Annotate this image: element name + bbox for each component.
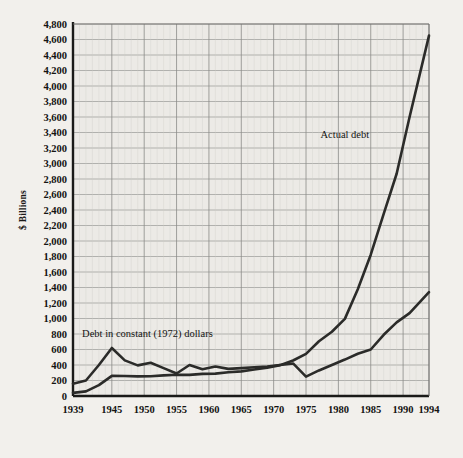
y-tick-label: 3,800 [43,96,67,107]
y-tick-label: 3,600 [43,112,67,123]
y-axis-title: $ Billions [18,190,28,230]
y-tick-label: 4,800 [43,19,67,30]
y-tick-label: 2,000 [43,236,67,247]
y-tick-label: 1,800 [43,251,67,262]
x-tick-label: 1960 [198,404,219,415]
y-tick-label: 4,200 [43,65,67,76]
y-tick-label: 4,000 [43,81,67,92]
x-tick-label: 1965 [231,404,252,415]
chart-figure: 02004006008001,0001,2001,4001,6001,8002,… [0,0,463,458]
x-tick-label: 1994 [419,404,441,415]
x-tick-label: 1950 [134,404,155,415]
y-tick-label: 3,000 [43,158,67,169]
x-tick-label: 1970 [263,404,284,415]
y-tick-label: 1,000 [43,313,67,324]
x-tick-label: 1939 [63,404,84,415]
y-tick-label: 1,400 [43,282,67,293]
y-tick-label: 3,200 [43,143,67,154]
debt-line-chart: 02004006008001,0001,2001,4001,6001,8002,… [0,0,463,458]
x-tick-label: 1985 [360,404,381,415]
x-tick-label: 1955 [166,404,187,415]
x-tick-label: 1975 [296,404,317,415]
y-tick-label: 0 [62,391,67,402]
x-tick-label: 1980 [328,404,349,415]
series-annotation-label: Actual debt [321,129,370,140]
y-tick-label: 400 [51,360,67,371]
y-tick-label: 2,400 [43,205,67,216]
y-tick-label: 2,200 [43,220,67,231]
y-tick-label: 200 [51,375,67,386]
y-tick-label: 4,400 [43,50,67,61]
y-tick-label: 2,800 [43,174,67,185]
y-tick-label: 1,200 [43,298,67,309]
y-axis-title-label: $ Billions [18,190,28,230]
x-tick-label: 1945 [101,404,122,415]
y-tick-label: 3,400 [43,127,67,138]
series-annotation-label: Debt in constant (1972) dollars [82,328,213,340]
y-tick-label: 600 [51,344,67,355]
x-tick-label: 1990 [393,404,414,415]
y-tick-label: 2,600 [43,189,67,200]
y-tick-label: 1,600 [43,267,67,278]
y-tick-label: 4,600 [43,34,67,45]
y-tick-label: 800 [51,329,67,340]
